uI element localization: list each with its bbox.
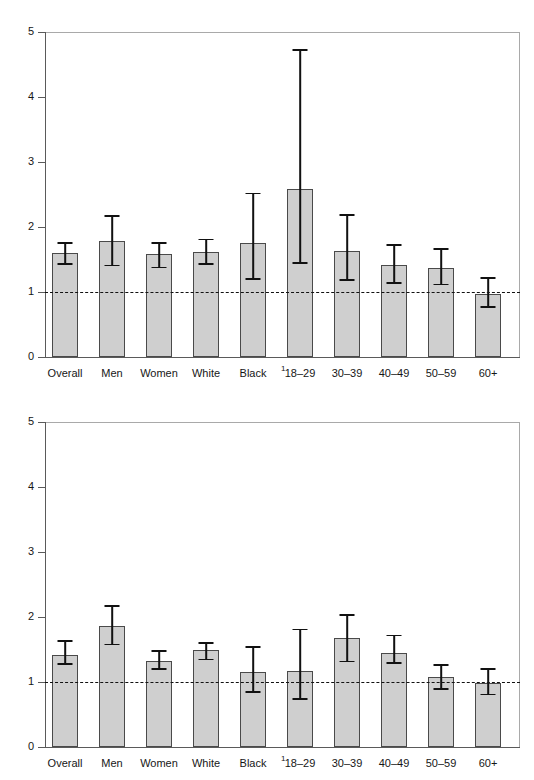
- error-bar-cap-lower: [293, 698, 308, 700]
- y-axis-tick-label: 1: [12, 286, 34, 297]
- x-axis-label-men: Men: [101, 367, 122, 379]
- bar-women: [146, 661, 172, 747]
- x-axis-label-40-49: 40–49: [379, 367, 410, 379]
- error-bar-cap-upper: [246, 646, 261, 648]
- error-bar-cap-lower: [199, 263, 214, 265]
- x-axis-label-white: White: [192, 757, 220, 769]
- x-axis-label-overall: Overall: [48, 367, 83, 379]
- error-bar-cap-lower: [340, 279, 355, 281]
- y-axis-tick-label: 5: [12, 416, 34, 427]
- error-bar-cap-upper: [434, 248, 449, 250]
- error-bar-stem: [440, 664, 442, 688]
- plot-border-top: [45, 32, 520, 33]
- y-axis-tick-label: 2: [12, 611, 34, 622]
- y-axis-tick: [38, 552, 45, 553]
- y-axis-tick: [38, 617, 45, 618]
- x-axis-label-50-59: 50–59: [426, 757, 457, 769]
- y-axis-tick-label: 4: [12, 91, 34, 102]
- error-bar-cap-lower: [434, 688, 449, 690]
- error-bar-cap-upper: [152, 650, 167, 652]
- error-bar-cap-lower: [481, 306, 496, 308]
- error-bar-stem: [111, 605, 113, 643]
- error-bar-cap-lower: [246, 278, 261, 280]
- error-bar-stem: [252, 646, 254, 691]
- error-bar-cap-upper: [58, 640, 73, 642]
- y-axis-tick-label: 2: [12, 221, 34, 232]
- bar-overall: [52, 655, 78, 747]
- error-bar-stem: [64, 242, 66, 263]
- error-bar-stem: [252, 193, 254, 279]
- y-axis-tick: [38, 97, 45, 98]
- y-axis-tick-label: 3: [12, 546, 34, 557]
- plot-top: 012345 OverallMenWomenWhiteBlack118–2930…: [0, 0, 534, 390]
- y-axis-tick-label: 5: [12, 26, 34, 37]
- error-bar-cap-upper: [152, 242, 167, 244]
- error-bar-cap-lower: [387, 282, 402, 284]
- x-axis-label-women: Women: [140, 367, 178, 379]
- y-axis-tick: [38, 357, 45, 358]
- error-bar-stem: [299, 629, 301, 699]
- y-axis-tick: [38, 292, 45, 293]
- bar-white: [193, 252, 219, 357]
- error-bar-cap-upper: [293, 629, 308, 631]
- bar-40-49: [381, 653, 407, 747]
- y-axis-tick: [38, 682, 45, 683]
- x-axis-label-overall: Overall: [48, 757, 83, 769]
- reference-line-at-one: [45, 682, 520, 683]
- error-bar-cap-lower: [58, 263, 73, 265]
- y-axis-tick: [38, 162, 45, 163]
- error-bar-cap-lower: [246, 691, 261, 693]
- y-axis-tick-label: 1: [12, 676, 34, 687]
- error-bar-stem: [299, 49, 301, 262]
- error-bar-cap-upper: [340, 214, 355, 216]
- error-bar-cap-lower: [58, 663, 73, 665]
- error-bar-cap-upper: [387, 244, 402, 246]
- plot-border-right: [519, 32, 520, 357]
- error-bar-cap-upper: [481, 277, 496, 279]
- error-bar-stem: [346, 214, 348, 279]
- error-bar-cap-lower: [152, 267, 167, 269]
- error-bar-cap-lower: [387, 662, 402, 664]
- error-bar-cap-upper: [199, 642, 214, 644]
- error-bar-cap-upper: [105, 215, 120, 217]
- error-bar-cap-upper: [58, 242, 73, 244]
- x-axis-label-18-29: 18–29: [285, 757, 316, 769]
- x-axis-label-60-: 60+: [479, 367, 498, 379]
- plot-border-top: [45, 422, 520, 423]
- plot-border-right: [519, 422, 520, 747]
- x-axis-label-black: Black: [240, 757, 267, 769]
- error-bar-cap-upper: [387, 635, 402, 637]
- y-axis-tick-label: 0: [12, 741, 34, 752]
- error-bar-cap-lower: [293, 262, 308, 264]
- x-axis-line: [45, 747, 520, 748]
- y-axis-tick: [38, 227, 45, 228]
- plot-bottom: 012345 OverallMenWomenWhiteBlack118–2930…: [0, 390, 534, 780]
- error-bar-stem: [158, 650, 160, 668]
- bar-overall: [52, 253, 78, 357]
- bar-women: [146, 254, 172, 357]
- error-bar-cap-lower: [199, 659, 214, 661]
- error-bar-cap-upper: [340, 614, 355, 616]
- error-bar-stem: [111, 215, 113, 264]
- x-axis-label-60-: 60+: [479, 757, 498, 769]
- x-axis-label-men: Men: [101, 757, 122, 769]
- error-bar-cap-upper: [105, 605, 120, 607]
- error-bar-cap-upper: [246, 193, 261, 195]
- error-bar-cap-lower: [481, 694, 496, 696]
- chart-panel-bottom: 012345 OverallMenWomenWhiteBlack118–2930…: [0, 390, 534, 780]
- error-bar-stem: [393, 244, 395, 282]
- x-axis-label-18-29: 18–29: [285, 367, 316, 379]
- figure-two-panel-bar-chart: 012345 OverallMenWomenWhiteBlack118–2930…: [0, 0, 534, 780]
- error-bar-cap-lower: [105, 265, 120, 267]
- error-bar-stem: [64, 640, 66, 663]
- y-axis-tick: [38, 487, 45, 488]
- x-axis-label-black: Black: [240, 367, 267, 379]
- x-axis-label-women: Women: [140, 757, 178, 769]
- y-axis-line: [45, 422, 46, 747]
- bar-white: [193, 650, 219, 747]
- error-bar-cap-lower: [340, 661, 355, 663]
- error-bar-cap-upper: [293, 49, 308, 51]
- error-bar-cap-upper: [434, 664, 449, 666]
- error-bar-cap-upper: [199, 239, 214, 241]
- y-axis-line: [45, 32, 46, 357]
